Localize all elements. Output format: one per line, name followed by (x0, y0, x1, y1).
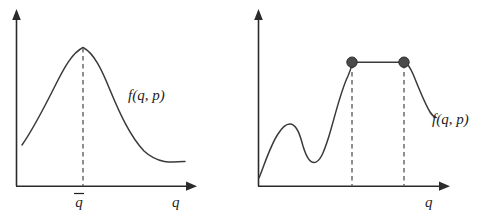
non-strictly-quasiconcave-panel: f(q, p) q (240, 0, 487, 217)
function-label-left: f(q, p) (128, 87, 165, 104)
x-axis-label-right: q (425, 194, 433, 210)
x-axis-left (16, 182, 197, 191)
x-axis-arrow-icon (186, 182, 197, 191)
x-axis-label-left: q (172, 194, 180, 210)
function-curve-left (22, 48, 185, 163)
y-axis-arrow-icon (254, 9, 263, 20)
x-axis-right (258, 182, 450, 191)
y-axis-left (12, 9, 21, 186)
maximizer-label: q (75, 194, 83, 210)
left-plateau-endpoint-dot (347, 57, 357, 67)
figure-root: f(q, p) q q (0, 0, 487, 217)
maximizer-label-group: q (74, 194, 84, 211)
function-label-right: f(q, p) (432, 111, 469, 128)
x-axis-arrow-icon (439, 182, 450, 191)
y-axis-arrow-icon (12, 9, 21, 20)
y-axis-right (254, 9, 263, 186)
strictly-quasiconcave-panel: f(q, p) q q (0, 0, 240, 217)
function-curve-right-tail (404, 63, 436, 118)
function-curve-right (259, 63, 352, 179)
right-plateau-endpoint-dot (399, 57, 409, 67)
